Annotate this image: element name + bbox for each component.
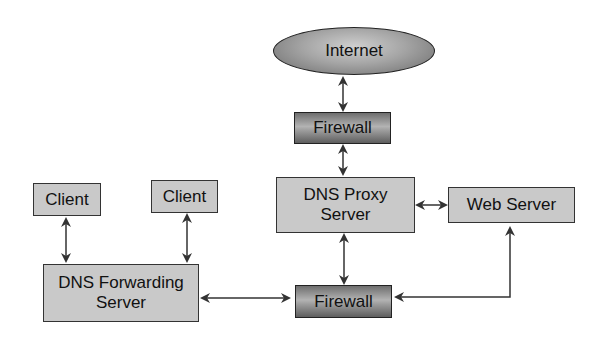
firewall-top-node: Firewall: [294, 112, 391, 144]
client-right-node: Client: [151, 180, 218, 213]
dns-forwarding-label: DNS Forwarding Server: [58, 273, 184, 313]
internet-label: Internet: [325, 41, 383, 61]
edge-firewall-bottom-webserver: [396, 228, 510, 297]
dns-forwarding-node: DNS Forwarding Server: [43, 264, 199, 322]
web-server-node: Web Server: [448, 187, 575, 223]
internet-node: Internet: [273, 27, 435, 75]
firewall-bottom-node: Firewall: [295, 285, 392, 318]
web-server-label: Web Server: [467, 195, 556, 215]
dns-proxy-node: DNS Proxy Server: [276, 177, 415, 233]
client-left-node: Client: [33, 183, 101, 216]
dns-proxy-label: DNS Proxy Server: [303, 185, 387, 225]
firewall-top-label: Firewall: [313, 118, 372, 138]
client-left-label: Client: [45, 190, 88, 210]
firewall-bottom-label: Firewall: [314, 292, 373, 312]
client-right-label: Client: [163, 187, 206, 207]
